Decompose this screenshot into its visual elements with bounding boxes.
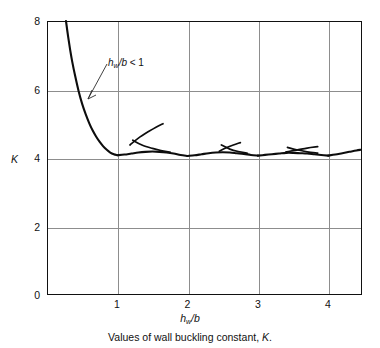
- y-tick-label-8: 8: [24, 16, 40, 27]
- annotation-rest: /b: [119, 57, 127, 68]
- annotation-relation: < 1: [127, 57, 144, 68]
- caption-suffix: .: [269, 331, 272, 343]
- x-tick-label-3: 3: [250, 299, 266, 310]
- y-tick-label-0: 0: [24, 290, 40, 301]
- y-tick-label-2: 2: [24, 222, 40, 233]
- caption-prefix: Values of wall buckling constant,: [108, 331, 262, 343]
- x-tick-label-2: 2: [180, 299, 196, 310]
- plot-area: [47, 21, 362, 295]
- annotation-label: hw/b < 1: [108, 57, 144, 69]
- figure-container: 8 6 4 2 0 1 2 3 4 K hw/b hw/b < 1 Values…: [0, 0, 380, 348]
- gridline-x-2: [189, 22, 190, 294]
- gridline-x-4: [329, 22, 330, 294]
- y-axis-title: K: [11, 153, 18, 165]
- caption-symbol: K: [262, 331, 269, 343]
- y-tick-label-4: 4: [24, 153, 40, 164]
- y-tick-label-6: 6: [24, 85, 40, 96]
- x-axis-title-rest: /b: [191, 312, 200, 324]
- gridline-y-4: [48, 159, 361, 160]
- x-axis-title: hw/b: [0, 312, 380, 325]
- gridline-y-2: [48, 228, 361, 229]
- gridline-x-3: [259, 22, 260, 294]
- x-tick-label-1: 1: [109, 299, 125, 310]
- x-tick-label-4: 4: [320, 299, 336, 310]
- figure-caption: Values of wall buckling constant, K.: [0, 331, 380, 343]
- gridline-y-6: [48, 91, 361, 92]
